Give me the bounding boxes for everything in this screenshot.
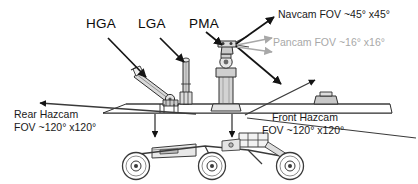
hga-leader-arrow [108,38,146,77]
wheel-front [277,153,304,180]
label-rear-hazcam-line1: Rear Hazcam [14,108,78,120]
label-pancam-fov: Pancam FOV ~16° x16° [273,36,385,48]
label-rear-hazcam-line2: FOV ~120° x120° [14,121,96,133]
deck-instrument-box [314,92,338,104]
low-gain-antenna [180,58,192,104]
label-hga: HGA [86,16,116,32]
wheel-rear [123,153,150,180]
navcam-upper-ray [236,17,274,44]
rover-chassis-assembly [123,133,304,180]
wheel-middle [199,153,226,180]
part-callout-arrows [108,32,222,77]
deck-plate [103,104,392,113]
rover-wheels [123,153,304,180]
label-navcam-fov: Navcam FOV ~45° x45° [278,8,390,20]
mast-fov-rays [236,17,281,84]
navcam-lower-ray [236,46,281,84]
label-lga: LGA [138,16,166,32]
label-front-hazcam-line1: Front Hazcam [272,111,338,123]
label-pma: PMA [189,16,219,32]
rover-fov-diagram: HGA LGA PMA Navcam FOV ~45° x45° Pancam … [0,0,418,184]
pma-leader-arrow [206,32,222,45]
label-front-hazcam-line2: FOV ~120° x120° [262,124,344,136]
lga-leader-arrow [160,38,184,62]
